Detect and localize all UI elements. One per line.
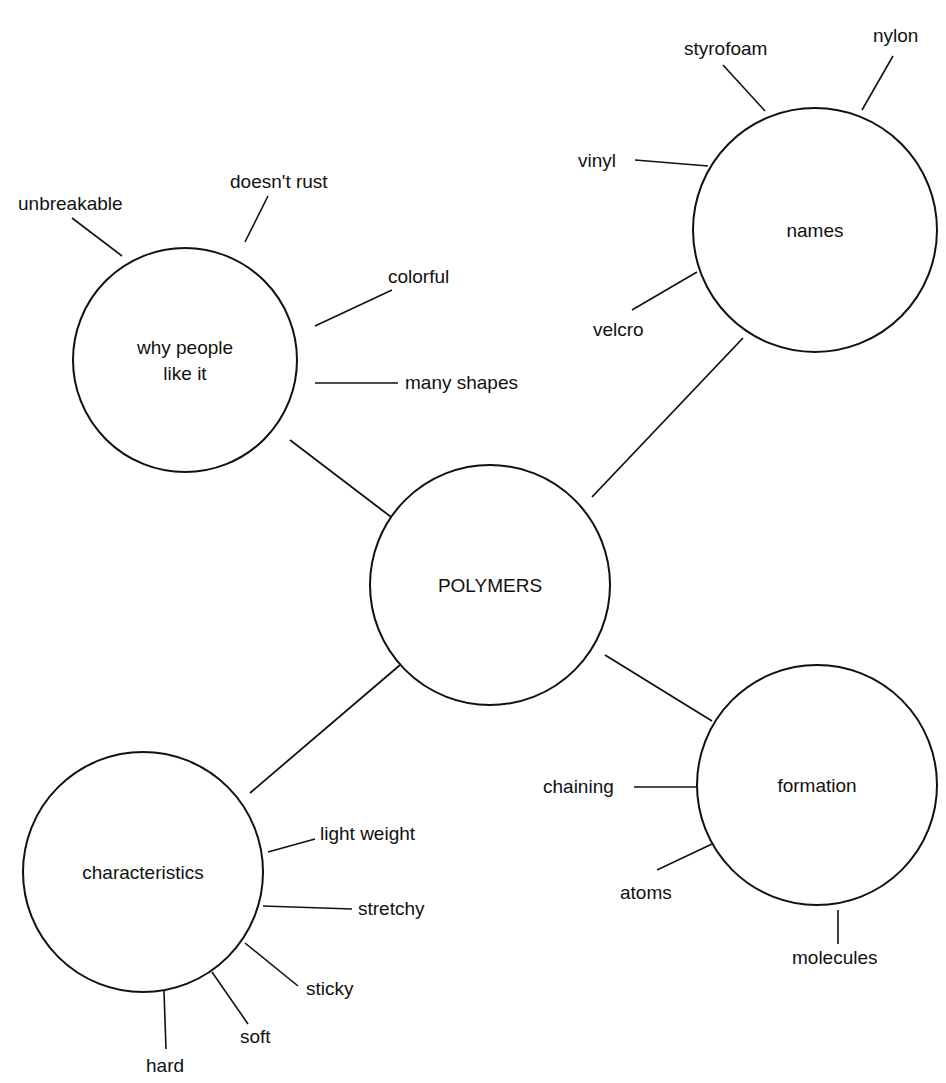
center-label: POLYMERS bbox=[438, 575, 542, 596]
leaf-atoms: atoms bbox=[620, 882, 672, 903]
leaf-styrofoam: styrofoam bbox=[684, 38, 767, 59]
spoke-light-weight bbox=[268, 839, 315, 852]
spoke-soft bbox=[212, 972, 248, 1024]
edge-names bbox=[592, 338, 743, 497]
spoke-doesn-t-rust bbox=[245, 196, 268, 242]
node-circle-why bbox=[73, 248, 297, 472]
center-node: POLYMERS bbox=[370, 465, 610, 705]
spoke-colorful bbox=[315, 290, 392, 326]
spoke-hard bbox=[164, 991, 166, 1049]
leaf-colorful: colorful bbox=[388, 266, 449, 287]
node-label-why: why people bbox=[136, 337, 233, 358]
leaf-vinyl: vinyl bbox=[578, 150, 616, 171]
node-characteristics: characteristics bbox=[23, 752, 263, 992]
spoke-vinyl bbox=[635, 160, 708, 166]
node-label-why: like it bbox=[163, 363, 207, 384]
spoke-nylon bbox=[862, 56, 893, 110]
leaf-light-weight: light weight bbox=[320, 823, 416, 844]
spoke-atoms bbox=[657, 844, 712, 870]
leaf-soft: soft bbox=[240, 1026, 271, 1047]
leaf-nylon: nylon bbox=[873, 25, 918, 46]
leaf-molecules: molecules bbox=[792, 947, 878, 968]
leaf-velcro: velcro bbox=[593, 319, 644, 340]
spoke-velcro bbox=[632, 272, 697, 310]
leaf-chaining: chaining bbox=[543, 776, 614, 797]
node-why: why peoplelike it bbox=[73, 248, 297, 472]
node-label-formation: formation bbox=[777, 775, 856, 796]
leaf-hard: hard bbox=[146, 1055, 184, 1076]
node-names: names bbox=[693, 108, 937, 352]
spoke-styrofoam bbox=[723, 65, 765, 111]
edge-formation bbox=[605, 655, 712, 721]
leaf-unbreakable: unbreakable bbox=[18, 193, 123, 214]
leaf-doesn-t-rust: doesn't rust bbox=[230, 171, 328, 192]
concept-map: why peoplelike itnamescharacteristicsfor… bbox=[0, 0, 946, 1083]
spoke-stretchy bbox=[263, 906, 352, 909]
node-label-names: names bbox=[786, 220, 843, 241]
leaf-sticky: sticky bbox=[306, 978, 354, 999]
leaf-stretchy: stretchy bbox=[358, 898, 425, 919]
leaf-many-shapes: many shapes bbox=[405, 372, 518, 393]
node-label-characteristics: characteristics bbox=[82, 862, 203, 883]
spoke-sticky bbox=[245, 943, 298, 986]
edge-why bbox=[290, 440, 395, 520]
edge-characteristics bbox=[250, 665, 400, 793]
spoke-unbreakable bbox=[72, 218, 122, 256]
node-formation: formation bbox=[697, 665, 937, 905]
